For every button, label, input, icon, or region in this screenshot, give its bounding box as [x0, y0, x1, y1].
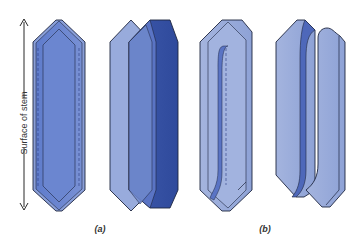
panel-a-divided-cells	[110, 20, 178, 211]
panel-a-intact-cell	[33, 20, 85, 211]
panel-b-dividing-cell	[200, 20, 252, 211]
panel-a-label: (a)	[95, 224, 106, 234]
panel-b-separated-cells	[276, 20, 345, 207]
stem-surface-axis: Surface of stem	[19, 19, 29, 210]
diagram-canvas: Surface of stem (a) (b)	[0, 0, 363, 240]
axis-label: Surface of stem	[19, 91, 29, 154]
panel-b-label: (b)	[259, 224, 271, 234]
